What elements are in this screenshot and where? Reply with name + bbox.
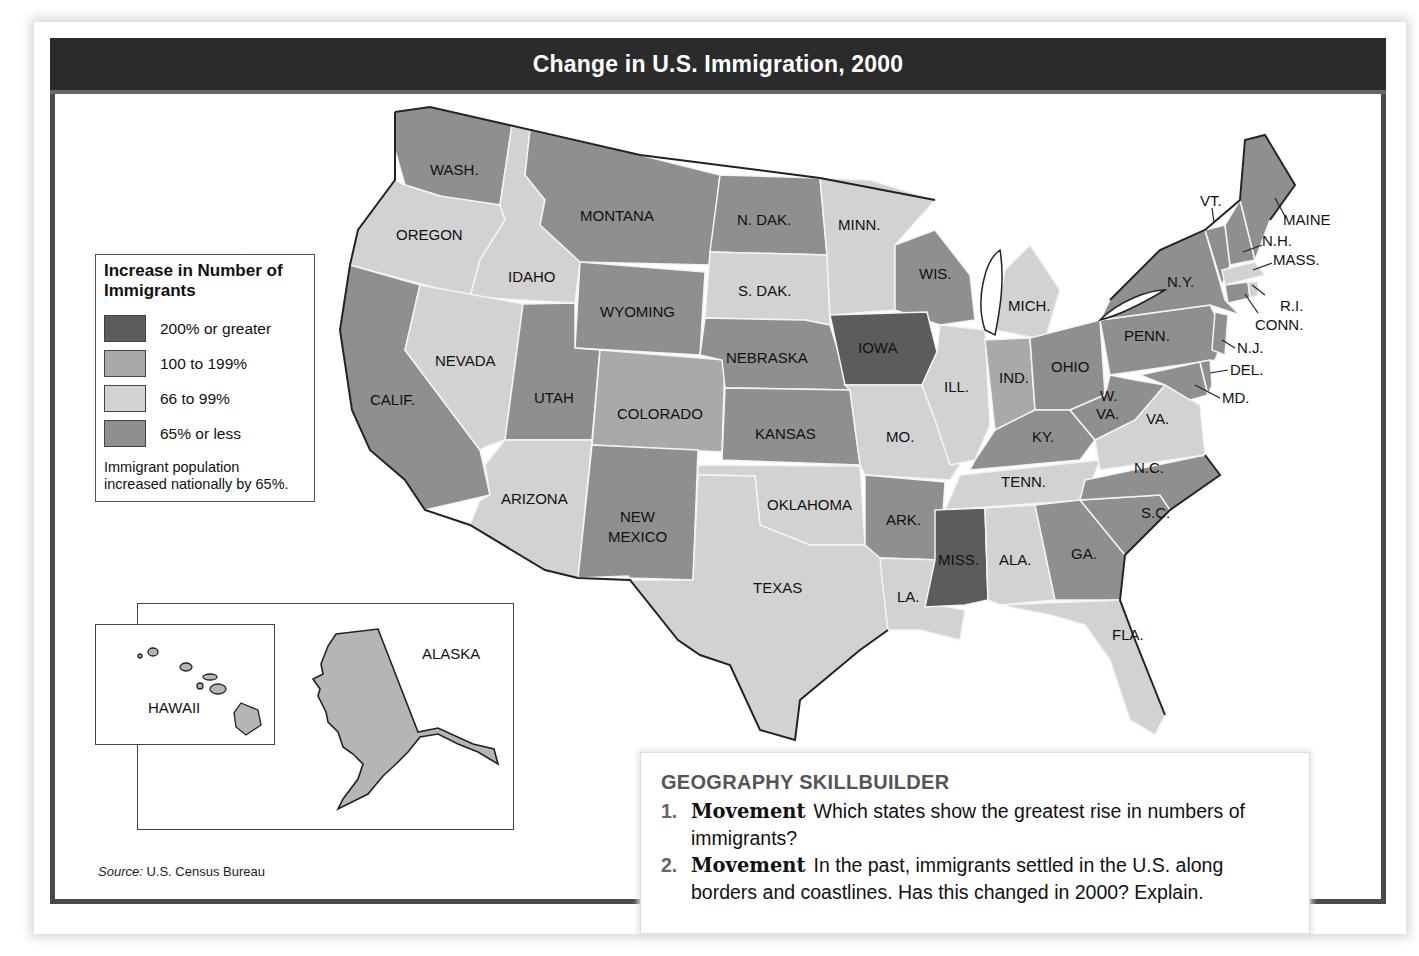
label-ri: R.I. (1280, 297, 1303, 314)
source-credit: Source: U.S. Census Bureau (98, 864, 265, 879)
label-sc: S.C. (1141, 504, 1170, 521)
skillbuilder-heading: GEOGRAPHY SKILLBUILDER (661, 771, 1289, 794)
label-la: LA. (897, 588, 920, 605)
label-nh: N.H. (1262, 232, 1292, 249)
island-niihau (138, 654, 142, 658)
label-utah: UTAH (534, 389, 574, 406)
label-ind: IND. (999, 369, 1029, 386)
label-arizona: ARIZONA (501, 490, 568, 507)
island-big-island (234, 703, 261, 735)
label-wyoming: WYOMING (600, 303, 675, 320)
label-mich: MICH. (1008, 297, 1051, 314)
label-tenn: TENN. (1001, 473, 1046, 490)
label-miss: MISS. (938, 551, 979, 568)
label-va: VA. (1146, 410, 1169, 427)
state-ri (1248, 282, 1258, 298)
question-keyword: Movement (691, 854, 806, 877)
state-mich (995, 245, 1060, 340)
island-kauai (148, 648, 158, 656)
label-ohio: OHIO (1051, 358, 1089, 375)
label-mass: MASS. (1273, 251, 1320, 268)
label-ill: ILL. (944, 378, 969, 395)
label-oregon: OREGON (396, 226, 463, 243)
state-colorado (592, 350, 725, 452)
label-ark: ARK. (886, 511, 921, 528)
legend-heading: Increase in Number of Immigrants (104, 261, 306, 301)
leader-vt (1212, 208, 1214, 222)
source-label: Source: (98, 864, 143, 879)
question-2: 2. MovementIn the past, immigrants settl… (661, 852, 1289, 906)
state-nj (1212, 312, 1228, 355)
label-ny: N.Y. (1167, 273, 1194, 290)
state-fla (1000, 600, 1165, 735)
island-maui (210, 684, 226, 694)
question-number: 2. (661, 852, 691, 906)
label-newmexico-1: NEW (620, 508, 656, 525)
label-mo: MO. (886, 428, 914, 445)
label-minn: MINN. (838, 216, 881, 233)
label-wash: WASH. (430, 161, 479, 178)
label-nj: N.J. (1237, 339, 1264, 356)
label-penn: PENN. (1124, 327, 1170, 344)
label-wva-1: W. (1100, 387, 1118, 404)
hawaii-inset: HAWAII (95, 624, 275, 745)
legend-item: 200% or greater (104, 311, 306, 346)
legend-item: 66 to 99% (104, 381, 306, 416)
label-del: DEL. (1230, 361, 1263, 378)
source-text: U.S. Census Bureau (143, 864, 265, 879)
label-ky: KY. (1032, 428, 1054, 445)
question-keyword: Movement (691, 800, 806, 823)
island-lanai (197, 683, 203, 689)
label-idaho: IDAHO (508, 268, 556, 285)
question-1: 1. MovementWhich states show the greates… (661, 798, 1289, 852)
label-ga: GA. (1071, 545, 1097, 562)
label-ndak: N. DAK. (737, 211, 791, 228)
legend-label: 200% or greater (160, 320, 271, 338)
label-calif: CALIF. (370, 391, 415, 408)
label-colorado: COLORADO (617, 405, 703, 422)
skillbuilder-box: GEOGRAPHY SKILLBUILDER 1. MovementWhich … (640, 752, 1310, 934)
label-fla: FLA. (1112, 626, 1144, 643)
label-conn: CONN. (1255, 316, 1303, 333)
legend-label: 66 to 99% (160, 390, 230, 408)
label-montana: MONTANA (580, 207, 654, 224)
label-nebraska: NEBRASKA (726, 349, 808, 366)
legend-note: Immigrant population increased nationall… (104, 459, 306, 493)
legend-swatch (104, 420, 146, 447)
legend-item: 65% or less (104, 416, 306, 451)
label-ala: ALA. (999, 551, 1032, 568)
label-sdak: S. DAK. (738, 282, 791, 299)
state-arizona (470, 440, 592, 578)
label-maine: MAINE (1283, 211, 1331, 228)
legend: Increase in Number of Immigrants 200% or… (95, 254, 315, 502)
legend-swatch (104, 385, 146, 412)
label-wva-2: VA. (1096, 405, 1119, 422)
label-nc: N.C. (1134, 459, 1164, 476)
legend-swatch (104, 350, 146, 377)
label-hawaii: HAWAII (148, 699, 200, 716)
label-iowa: IOWA (858, 339, 897, 356)
hawaii-map: HAWAII (96, 625, 276, 746)
label-texas: TEXAS (753, 579, 802, 596)
label-md: MD. (1222, 389, 1250, 406)
legend-label: 65% or less (160, 425, 241, 443)
label-wis: WIS. (919, 265, 952, 282)
label-vt: VT. (1200, 192, 1222, 209)
island-oahu (180, 663, 192, 671)
island-molokai (203, 674, 217, 680)
legend-label: 100 to 199% (160, 355, 247, 373)
label-kansas: KANSAS (755, 425, 816, 442)
legend-swatch (104, 315, 146, 342)
leader-del (1210, 370, 1228, 373)
label-nevada: NEVADA (435, 352, 496, 369)
label-oklahoma: OKLAHOMA (767, 496, 852, 513)
legend-item: 100 to 199% (104, 346, 306, 381)
label-newmexico-2: MEXICO (608, 528, 667, 545)
state-conn (1225, 282, 1250, 303)
label-alaska: ALASKA (422, 645, 480, 662)
question-number: 1. (661, 798, 691, 852)
